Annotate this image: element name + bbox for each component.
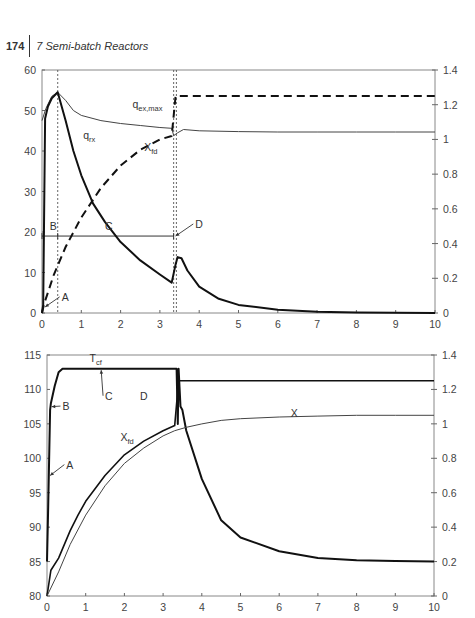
y-tick-label-right: 1: [442, 418, 448, 430]
y-tick-label-left: 110: [24, 383, 41, 395]
y-tick-label-right: 0: [443, 307, 449, 319]
y-tick-label-right: 0.8: [443, 168, 458, 180]
x-tick-label: 5: [236, 318, 242, 330]
x-tick-label: 6: [276, 601, 282, 613]
y-tick-label-right: 0: [442, 590, 448, 602]
x-tick-label: 7: [314, 318, 320, 330]
series-x: [47, 415, 434, 596]
y-tick-label-left: 20: [24, 226, 36, 238]
x-tick-label: 4: [196, 318, 202, 330]
x-tick-label: 8: [354, 601, 360, 613]
y-tick-label-left: 0: [30, 307, 36, 319]
y-tick-label-left: 115: [24, 349, 41, 361]
annotation-b: B: [62, 400, 69, 412]
plot-frame: [42, 70, 435, 313]
y-tick-label-right: 1.4: [443, 64, 458, 76]
x-tick-label: 8: [353, 318, 359, 330]
x-tick-label: 9: [393, 318, 399, 330]
y-tick-label-left: 30: [24, 186, 36, 198]
series-q-ex-max: [42, 92, 435, 135]
series-x-fd: [42, 96, 435, 313]
series-x-fd: [47, 381, 434, 596]
x-tick-label: 7: [315, 601, 321, 613]
annotation-a: A: [62, 291, 69, 303]
annotation-x-fd: Xfd: [121, 431, 134, 446]
annotation-q-ex-max: qex,max: [132, 98, 162, 113]
annotation-c: C: [105, 220, 113, 232]
annotation-b: B: [50, 220, 57, 232]
y-tick-label-right: 0.4: [443, 238, 458, 250]
arrowhead-icon: [52, 405, 56, 408]
y-tick-label-right: 1.2: [442, 383, 457, 395]
y-tick-label-left: 105: [23, 418, 41, 430]
annotation-x-fd: Xfd: [144, 141, 157, 156]
x-tick-label: 4: [199, 601, 205, 613]
x-tick-label: 10: [428, 601, 440, 613]
annotation-t-cf: Tcf: [90, 352, 103, 367]
annotation-d: D: [140, 390, 148, 402]
y-tick-label-right: 0.4: [442, 521, 457, 533]
x-tick-label: 9: [392, 601, 398, 613]
figure-charts: 012345678910010203040506000.20.40.60.811…: [0, 0, 475, 618]
y-tick-label-right: 0.2: [443, 272, 458, 284]
y-tick-label-left: 95: [29, 487, 41, 499]
x-tick-label: 1: [78, 318, 84, 330]
x-tick-label: 10: [429, 318, 441, 330]
x-tick-label: 2: [118, 318, 124, 330]
arrowhead-icon: [45, 303, 49, 306]
y-tick-label-left: 85: [29, 556, 41, 568]
chart-bottom-temperature: 0123456789108085909510010511011500.20.40…: [23, 349, 456, 613]
x-tick-label: 5: [238, 601, 244, 613]
x-tick-label: 1: [83, 601, 89, 613]
y-tick-label-right: 0.6: [443, 203, 458, 215]
annotation-d: D: [195, 218, 203, 230]
y-tick-label-right: 0.6: [442, 487, 457, 499]
y-tick-label-right: 1.4: [442, 349, 457, 361]
y-tick-label-left: 100: [23, 452, 41, 464]
y-tick-label-left: 50: [24, 105, 36, 117]
y-tick-label-left: 90: [29, 521, 41, 533]
y-tick-label-right: 0.2: [442, 556, 457, 568]
chart-top-heat-flow: 012345678910010203040506000.20.40.60.811…: [24, 64, 457, 330]
x-tick-label: 3: [157, 318, 163, 330]
annotation-a: A: [66, 459, 73, 471]
annotation-x: X: [291, 407, 298, 419]
annotation-q-rx: qrx: [83, 129, 95, 144]
y-tick-label-right: 1: [443, 133, 449, 145]
y-tick-label-right: 0.8: [442, 452, 457, 464]
annotation-arrow: [101, 370, 103, 396]
y-tick-label-right: 1.2: [443, 99, 458, 111]
x-tick-label: 6: [275, 318, 281, 330]
y-tick-label-left: 40: [24, 145, 36, 157]
x-tick-label: 0: [39, 318, 45, 330]
x-tick-label: 0: [44, 601, 50, 613]
annotation-c: C: [105, 390, 113, 402]
y-tick-label-left: 10: [24, 267, 36, 279]
y-tick-label-left: 60: [24, 64, 36, 76]
y-tick-label-left: 80: [29, 590, 41, 602]
arrowhead-icon: [100, 370, 103, 374]
x-tick-label: 2: [121, 601, 127, 613]
series-q-rx: [42, 92, 435, 313]
x-tick-label: 3: [160, 601, 166, 613]
